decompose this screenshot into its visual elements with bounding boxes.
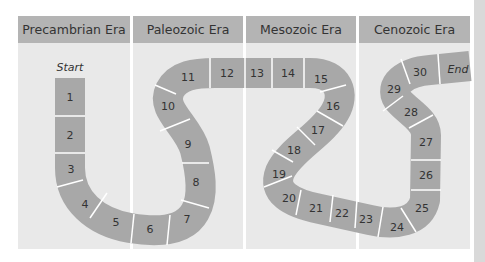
track-space-2: 2 <box>67 129 74 142</box>
track-space-22: 22 <box>335 207 349 220</box>
track-space-28: 28 <box>404 106 418 119</box>
track-space-8: 8 <box>193 176 200 189</box>
track-space-30: 30 <box>413 66 427 79</box>
track-space-19: 19 <box>272 168 286 181</box>
track-space-15: 15 <box>314 73 328 86</box>
track-space-17: 17 <box>311 124 325 137</box>
start-label: Start <box>57 61 84 74</box>
track-space-4: 4 <box>82 198 89 211</box>
track-space-25: 25 <box>415 202 429 215</box>
end-label: End <box>448 63 469 76</box>
track-space-6: 6 <box>147 223 154 236</box>
track-space-23: 23 <box>359 213 373 226</box>
track-space-26: 26 <box>419 169 433 182</box>
track-space-13: 13 <box>250 67 264 80</box>
track-space-3: 3 <box>68 163 75 176</box>
track-space-10: 10 <box>161 100 175 113</box>
track-space-24: 24 <box>390 221 404 234</box>
track-space-1: 1 <box>67 91 74 104</box>
track-space-29: 29 <box>387 83 401 96</box>
track-space-27: 27 <box>419 136 433 149</box>
track-space-21: 21 <box>309 202 323 215</box>
track-space-11: 11 <box>181 71 195 84</box>
track-space-16: 16 <box>326 100 340 113</box>
track-space-7: 7 <box>184 213 191 226</box>
track-space-5: 5 <box>113 216 120 229</box>
track-space-14: 14 <box>281 67 295 80</box>
track-space-12: 12 <box>220 67 234 80</box>
track-space-18: 18 <box>287 144 301 157</box>
track-path <box>70 66 470 230</box>
track-space-9: 9 <box>185 138 192 151</box>
track-space-20: 20 <box>282 192 296 205</box>
